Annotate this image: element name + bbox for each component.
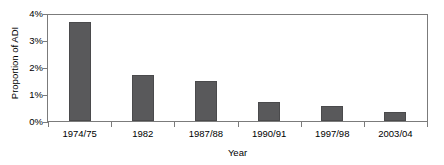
x-tick-mark	[111, 122, 112, 127]
y-tick-label: 2%	[9, 63, 43, 73]
x-tick-label: 2003/04	[364, 128, 427, 140]
y-tick-label: 0%	[9, 117, 43, 127]
x-tick-mark	[364, 122, 365, 127]
bar-slot	[174, 15, 237, 121]
bar[interactable]	[258, 102, 280, 121]
x-tick-label: 1997/98	[301, 128, 364, 140]
x-tick-mark	[427, 122, 428, 127]
x-tick-label: 1987/88	[174, 128, 237, 140]
bar[interactable]	[321, 106, 343, 121]
y-tick-label: 3%	[9, 36, 43, 46]
bar[interactable]	[195, 81, 217, 121]
bar-series	[48, 15, 427, 121]
x-tick-mark	[238, 122, 239, 127]
x-tick-mark	[301, 122, 302, 127]
bar-slot	[364, 15, 427, 121]
y-tick-label: 1%	[9, 90, 43, 100]
bar[interactable]	[384, 112, 406, 121]
bar-chart-figure: Proportion of ADI 0%1%2%3%4% 1974/751982…	[0, 0, 444, 165]
x-axis-title: Year	[48, 147, 427, 159]
bar-slot	[301, 15, 364, 121]
x-tick-label: 1974/75	[48, 128, 111, 140]
y-tick-label: 4%	[9, 9, 43, 19]
bar[interactable]	[69, 22, 91, 121]
bar-slot	[111, 15, 174, 121]
bar[interactable]	[132, 75, 154, 121]
x-axis-tick-labels: 1974/7519821987/881990/911997/982003/04	[48, 128, 427, 140]
x-tick-mark	[174, 122, 175, 127]
x-tick-label: 1990/91	[238, 128, 301, 140]
bar-slot	[238, 15, 301, 121]
x-tick-label: 1982	[111, 128, 174, 140]
x-tick-mark	[48, 122, 49, 127]
bar-slot	[48, 15, 111, 121]
